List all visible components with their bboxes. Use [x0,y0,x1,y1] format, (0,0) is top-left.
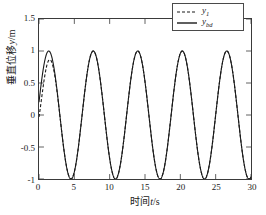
x-tick-label: 15 [141,183,150,192]
y-tick-label: -1 [28,176,36,185]
tick-marks [39,19,251,179]
legend-label-ybd: ybd [202,16,213,30]
legend: y1 ybd [172,3,244,31]
x-tick-label: 10 [105,183,114,192]
y-axis-title: 垂直位移y/m [5,0,19,137]
series-line-ybd [39,51,251,179]
x-axis-title-unit: /s [153,196,160,207]
x-tick-label: 0 [36,183,41,192]
y-axis-title-unit: /m [6,30,17,41]
x-axis-title: 时间t/s [38,196,252,208]
plot-area [38,18,252,180]
x-tick-label: 30 [248,183,257,192]
legend-entry-ybd: ybd [176,17,240,28]
x-tick-label: 25 [212,183,221,192]
plot-canvas [39,19,251,179]
series-line-y1 [39,51,251,179]
y-tick-label: 1 [31,46,36,55]
y-tick-label: -0.5 [21,143,35,152]
y-tick-label: 1.5 [24,14,35,23]
y-axis-title-variable: y [6,40,17,44]
y-axis-title-text: 垂直位移 [6,45,17,85]
legend-swatch-solid [176,18,198,28]
x-tick-label: 5 [71,183,76,192]
x-tick-label: 20 [176,183,185,192]
y-tick-label: 0 [31,111,36,120]
chart-figure: -1-0.500.511.5 垂直位移y/m 051015202530 时间t/… [0,0,266,215]
x-axis-title-text: 时间 [130,196,150,207]
y-tick-label: 0.5 [24,78,35,87]
legend-swatch-dashed [176,7,198,17]
x-axis-tick-labels: 051015202530 [38,183,252,195]
